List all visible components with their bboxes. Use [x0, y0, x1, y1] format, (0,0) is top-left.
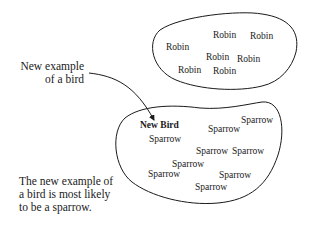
sparrow-label: Sparrow [196, 146, 228, 156]
conclusion-line-3: to be a sparrow. [19, 201, 113, 214]
sparrow-label: Sparrow [195, 182, 227, 192]
callout-label: New example of a bird [8, 60, 84, 86]
robin-label: Robin [237, 54, 260, 64]
callout-arrow [89, 73, 154, 120]
conclusion-line-1: The new example of [19, 175, 113, 188]
robin-label: Robin [213, 66, 236, 76]
robin-label: Robin [206, 52, 229, 62]
new-bird-label: New Bird [140, 120, 179, 130]
conclusion-line-2: a bird is most likely [19, 188, 113, 201]
robin-label: Robin [166, 42, 189, 52]
sparrow-label: Sparrow [241, 115, 273, 125]
bird-classification-diagram: Robin Robin Robin Robin Robin Robin Robi… [0, 0, 309, 228]
sparrow-label: Sparrow [172, 159, 204, 169]
sparrow-label: Sparrow [149, 134, 181, 144]
sparrow-label: Sparrow [219, 170, 251, 180]
sparrow-label: Sparrow [208, 124, 240, 134]
robin-label: Robin [213, 30, 236, 40]
sparrow-label: Sparrow [148, 169, 180, 179]
sparrow-label: Sparrow [232, 146, 264, 156]
robin-label: Robin [250, 31, 273, 41]
callout-line-1: New example [8, 60, 84, 73]
callout-line-2: of a bird [8, 73, 84, 86]
conclusion-text: The new example of a bird is most likely… [19, 175, 113, 214]
robin-label: Robin [178, 65, 201, 75]
